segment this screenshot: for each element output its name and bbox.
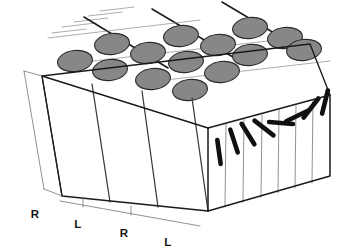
figure-canvas: RLRL bbox=[0, 0, 345, 252]
top-grid-minor-line-4 bbox=[88, 12, 122, 16]
ocular-dominance-label-layer: RLRL bbox=[31, 208, 172, 248]
cytochrome-blob bbox=[231, 15, 268, 40]
ocular-dominance-label-l-2: L bbox=[74, 218, 81, 230]
top-grid-minor-line-2 bbox=[62, 23, 96, 27]
cytochrome-blob bbox=[56, 48, 93, 73]
ocular-dominance-label-r-1: R bbox=[31, 208, 40, 220]
top-grid-minor-line-1 bbox=[52, 29, 86, 33]
cortical-column-figure: RLRL bbox=[0, 0, 345, 252]
ocular-dominance-label-r-3: R bbox=[120, 227, 129, 239]
left-top-guide bbox=[24, 71, 42, 76]
cytochrome-blob bbox=[93, 31, 130, 56]
cytochrome-blob bbox=[162, 23, 199, 48]
left-vertical-guide bbox=[24, 71, 44, 189]
left-bottom-guide bbox=[44, 189, 62, 196]
ocular-dominance-label-l-4: L bbox=[164, 236, 171, 248]
top-grid-minor-line-5 bbox=[100, 7, 134, 11]
